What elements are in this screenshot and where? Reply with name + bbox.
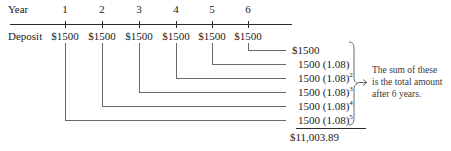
brace-arrow-icon — [358, 78, 368, 87]
total-amount: $11,003.89 — [290, 132, 339, 143]
leader-drop-2 — [102, 43, 103, 106]
accumulation-term-6-base: 1500 (1.08) — [298, 114, 349, 126]
year-tick-label-5: 5 — [202, 4, 222, 15]
annotation-line-3: after 6 years. — [372, 88, 421, 100]
year-row-label: Year — [8, 4, 28, 15]
accumulation-term-1: $1500 — [292, 45, 320, 56]
axis-tick-5 — [212, 21, 213, 28]
total-sum-rule — [296, 128, 366, 129]
leader-horizontal-4 — [176, 78, 286, 79]
leader-horizontal-6 — [248, 50, 286, 51]
timeline-axis — [10, 24, 292, 25]
leader-horizontal-2 — [102, 106, 286, 107]
year-tick-label-6: 6 — [238, 4, 258, 15]
leader-drop-5 — [212, 43, 213, 64]
deposit-amount-6: $1500 — [228, 31, 268, 42]
leader-drop-6 — [248, 43, 249, 50]
axis-tick-4 — [176, 21, 177, 28]
accumulation-term-2-base: 1500 (1.08) — [298, 58, 349, 70]
leader-horizontal-5 — [212, 64, 286, 65]
deposit-row-label: Deposit — [8, 31, 42, 42]
leader-drop-4 — [176, 43, 177, 78]
deposit-amount-1: $1500 — [45, 31, 85, 42]
leader-drop-3 — [139, 43, 140, 92]
accumulation-term-2: 1500 (1.08) — [298, 59, 349, 70]
accumulation-term-5: 1500 (1.08)4 — [298, 101, 353, 112]
accumulation-term-6: 1500 (1.08)5 — [298, 115, 353, 126]
accumulation-term-4: 1500 (1.08)3 — [298, 87, 353, 98]
accumulation-term-5-base: 1500 (1.08) — [298, 100, 349, 112]
axis-tick-1 — [65, 21, 66, 28]
leader-horizontal-1 — [65, 120, 286, 121]
deposit-amount-5: $1500 — [192, 31, 232, 42]
leader-drop-1 — [65, 43, 66, 120]
accumulation-term-4-base: 1500 (1.08) — [298, 86, 349, 98]
compound-interest-timeline-diagram: Year Deposit 1 2 3 4 5 6 $1500 $1500 $15… — [0, 0, 451, 151]
year-tick-label-2: 2 — [92, 4, 112, 15]
annotation-line-1: The sum of these — [372, 64, 437, 76]
accumulation-term-3-base: 1500 (1.08) — [298, 72, 349, 84]
year-tick-label-3: 3 — [129, 4, 149, 15]
year-tick-label-4: 4 — [166, 4, 186, 15]
accumulation-term-1-base: $1500 — [292, 44, 320, 56]
leader-horizontal-3 — [139, 92, 286, 93]
deposit-amount-4: $1500 — [156, 31, 196, 42]
axis-tick-6 — [248, 21, 249, 28]
annotation-line-2: is the total amount — [372, 76, 442, 88]
axis-tick-3 — [139, 21, 140, 28]
deposit-amount-2: $1500 — [82, 31, 122, 42]
year-tick-label-1: 1 — [55, 4, 75, 15]
deposit-amount-3: $1500 — [119, 31, 159, 42]
accumulation-term-3: 1500 (1.08)2 — [298, 73, 353, 84]
axis-tick-2 — [102, 21, 103, 28]
